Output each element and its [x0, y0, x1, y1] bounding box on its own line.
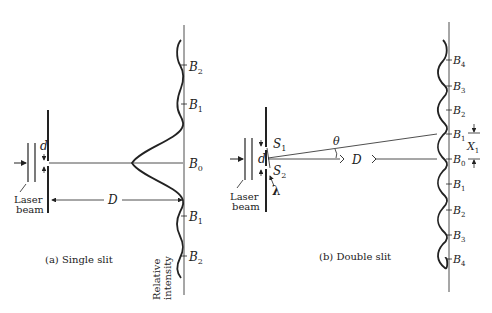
slit2-label: S2	[273, 164, 286, 180]
break-mark	[340, 155, 344, 163]
intensity-curve	[438, 40, 447, 268]
laser-label-line2: beam	[232, 201, 260, 212]
band-label: B2	[452, 104, 466, 119]
axis-label-line1: Relative	[151, 259, 162, 300]
wavelength-label: λ	[272, 184, 280, 198]
band-label: B1	[452, 128, 466, 143]
band-label: B4	[452, 253, 466, 268]
band-label: B1	[452, 178, 466, 193]
band-label: B2	[188, 250, 203, 266]
laser-label-pointer	[237, 180, 243, 188]
band-label: B0	[188, 157, 203, 173]
caption-single-slit: (a) Single slit	[45, 254, 113, 265]
slit1-label: S1	[273, 137, 286, 153]
axis-label-line2: intensity	[162, 256, 173, 300]
band-label: B2	[452, 204, 466, 219]
band-label: B3	[452, 80, 466, 95]
fringe-offset-label: X1	[466, 140, 479, 155]
distance-label: D	[351, 153, 362, 167]
double-slit-panel: d S1 S2 λ Laser beam θ D	[230, 22, 480, 292]
single-slit-panel: d Laser beam D B2 B1 B0 B1 B2 (a) Single…	[14, 25, 203, 300]
diffraction-diagram: d Laser beam D B2 B1 B0 B1 B2 (a) Single…	[0, 0, 492, 313]
band-label: B2	[188, 60, 203, 76]
laser-label-pointer	[20, 184, 26, 192]
band-label: B4	[452, 54, 466, 69]
angle-label: θ	[333, 135, 340, 148]
angle-arc	[335, 149, 337, 158]
laser-label-line2: beam	[16, 204, 44, 215]
slit-separation-label: d	[258, 152, 266, 166]
caption-double-slit: (b) Double slit	[319, 251, 391, 262]
distance-label: D	[107, 193, 118, 207]
band-label: B3	[452, 229, 466, 244]
band-label: B1	[188, 98, 203, 114]
band-label: B0	[452, 153, 466, 168]
break-mark	[372, 155, 376, 163]
intensity-curve	[132, 40, 183, 278]
slit-width-label: d	[40, 139, 48, 153]
band-label: B1	[188, 210, 203, 226]
